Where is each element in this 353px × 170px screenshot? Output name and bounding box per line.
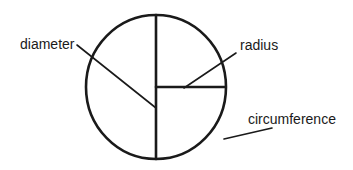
radius-label: radius [240,38,278,52]
diameter-label: diameter [20,37,74,51]
circumference-leader-line [224,128,272,139]
circle-diagram-graphic [0,0,353,170]
diameter-leader-line [77,45,156,108]
circumference-label: circumference [248,112,336,126]
radius-leader-line [184,53,236,88]
circle-diagram: diameter radius circumference [0,0,353,170]
